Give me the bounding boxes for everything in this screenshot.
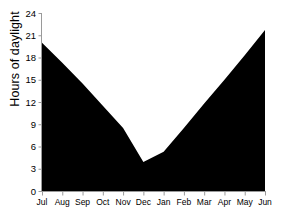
x-tick-label: Sep (75, 197, 90, 207)
x-tick-label: May (237, 197, 254, 207)
x-tick-label: Aug (55, 197, 70, 207)
x-tick-label: Oct (96, 197, 110, 207)
x-tick-label: Jun (258, 197, 272, 207)
y-tick-label: 0 (31, 186, 36, 197)
y-tick-label: 18 (25, 52, 36, 63)
y-tick-label: 12 (25, 97, 36, 108)
daylight-area-series (42, 30, 265, 191)
x-tick-label: Nov (116, 197, 132, 207)
y-tick-label: 15 (25, 74, 36, 85)
x-tick-label: Jul (37, 197, 48, 207)
x-tick-label: Dec (136, 197, 152, 207)
x-tick-label: Mar (197, 197, 212, 207)
x-axis-ticks: JulAugSepOctNovDecJanFebMarAprMayJun (37, 192, 273, 207)
x-tick-label: Feb (177, 197, 192, 207)
y-tick-label: 6 (31, 141, 36, 152)
y-tick-label: 3 (31, 163, 36, 174)
plot-svg: 03691215182124 JulAugSepOctNovDecJanFebM… (0, 0, 283, 211)
daylight-area-chart: Hours of daylight 03691215182124 JulAugS… (0, 0, 283, 211)
y-tick-label: 24 (25, 8, 36, 19)
y-tick-label: 21 (25, 30, 36, 41)
y-tick-label: 9 (31, 119, 36, 130)
y-axis-ticks: 03691215182124 (25, 8, 42, 197)
x-tick-label: Jan (157, 197, 171, 207)
x-tick-label: Apr (218, 197, 231, 207)
